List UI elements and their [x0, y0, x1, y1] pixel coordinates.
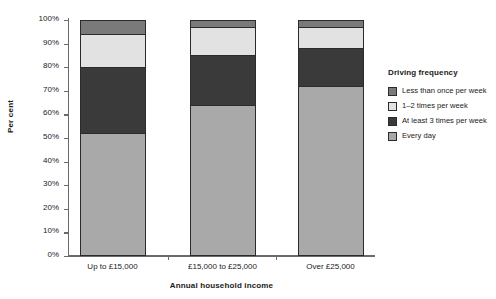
bar-segment: [190, 20, 256, 27]
bar-segment: [80, 34, 146, 67]
legend-item[interactable]: Every day: [388, 131, 494, 141]
y-axis-tick-label: 80%: [43, 61, 59, 70]
bar-segment: [298, 27, 364, 48]
bar-stack: [190, 20, 256, 256]
legend-items: Less than once per week1–2 times per wee…: [388, 86, 494, 141]
bar-segment: [190, 27, 256, 55]
bar-segment: [190, 105, 256, 256]
bar-segment: [298, 20, 364, 27]
y-axis-tick-label: 60%: [43, 108, 59, 117]
legend-swatch-icon: [388, 117, 397, 126]
y-axis-tick-label: 100%: [39, 14, 59, 23]
bar-segment: [80, 20, 146, 34]
y-axis-tick-label: 90%: [43, 38, 59, 47]
bar-segment: [190, 55, 256, 105]
legend-item-label: Less than once per week: [402, 86, 486, 95]
legend-swatch-icon: [388, 87, 397, 96]
stacked-bar-chart: Per cent 0%10%20%30%40%50%60%70%80%90%10…: [0, 0, 496, 299]
chart-legend: Driving frequency Less than once per wee…: [388, 68, 494, 146]
legend-swatch-icon: [388, 132, 397, 141]
legend-title: Driving frequency: [388, 68, 494, 77]
plot-area: [69, 20, 374, 256]
legend-item-label: At least 3 times per week: [402, 116, 487, 125]
bar-segment: [298, 86, 364, 256]
x-axis-tick-mark: [276, 256, 277, 260]
legend-item[interactable]: 1–2 times per week: [388, 101, 494, 111]
legend-item-label: 1–2 times per week: [402, 101, 468, 110]
legend-item-label: Every day: [402, 131, 436, 140]
x-axis-tick-mark: [168, 256, 169, 260]
bar-segment: [80, 133, 146, 256]
y-axis-tick-label: 20%: [43, 203, 59, 212]
y-axis-tick-label: 70%: [43, 85, 59, 94]
bar-stack: [80, 20, 146, 256]
y-axis-title: Per cent: [6, 81, 15, 153]
y-axis-tick-label: 50%: [43, 132, 59, 141]
bar-stack: [298, 20, 364, 256]
legend-item[interactable]: Less than once per week: [388, 86, 494, 96]
bar-segment: [298, 48, 364, 86]
legend-swatch-icon: [388, 102, 397, 111]
x-axis-tick-label: Over £25,000: [261, 262, 401, 271]
y-axis-tick-mark: [64, 256, 69, 257]
legend-item[interactable]: At least 3 times per week: [388, 116, 494, 126]
y-axis-tick-label: 30%: [43, 179, 59, 188]
y-axis-tick-label: 10%: [43, 226, 59, 235]
x-axis-title: Annual household income: [69, 281, 374, 290]
y-axis-tick-label: 0%: [47, 250, 59, 259]
y-axis-tick-label: 40%: [43, 156, 59, 165]
bar-segment: [80, 67, 146, 133]
